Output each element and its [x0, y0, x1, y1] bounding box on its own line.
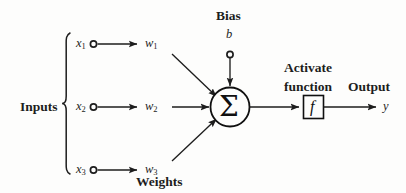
input-label-1-subscript: 1 — [82, 41, 86, 51]
weight-label-2-subscript: 2 — [153, 104, 157, 114]
input-node-1 — [90, 41, 96, 47]
weight-label-1-subscript: 1 — [153, 41, 157, 51]
bias-node — [227, 51, 233, 57]
activation-label-line2: function — [284, 80, 332, 94]
input-label-3-subscript: 3 — [82, 167, 86, 177]
input-label-2: x2 — [76, 100, 86, 113]
weights-label: Weights — [136, 175, 183, 189]
input-label-2-subscript: 2 — [82, 104, 86, 114]
neuron-diagram: Σ f Inputs x1 x2 x3 w1 w2 w3 Weights Bia… — [0, 0, 406, 193]
output-label: Output — [348, 80, 390, 94]
input-node-3 — [90, 167, 96, 173]
inputs-brace — [62, 33, 70, 174]
output-symbol-label: y — [383, 100, 389, 113]
inputs-label: Inputs — [20, 100, 58, 114]
weight-label-2: w2 — [145, 100, 158, 113]
input-label-1: x1 — [76, 37, 86, 50]
input-node-2 — [90, 104, 96, 110]
input-label-3: x3 — [76, 163, 86, 176]
activation-symbol: f — [310, 99, 314, 115]
weight-to-sum-line-1 — [172, 54, 217, 97]
weight-to-sum-line-3 — [172, 119, 217, 161]
bias-symbol-label: b — [226, 28, 232, 41]
weight-label-1: w1 — [145, 37, 158, 50]
summation-symbol: Σ — [219, 93, 239, 121]
diagram-canvas — [0, 0, 406, 193]
activation-label-line1: Activate — [284, 61, 332, 75]
bias-label: Bias — [216, 9, 241, 23]
